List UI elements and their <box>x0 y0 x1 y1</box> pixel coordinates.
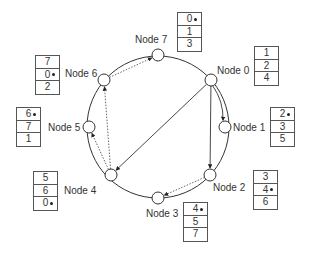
node-1-label: Node 1 <box>233 122 265 133</box>
nodes-layer <box>83 49 231 204</box>
finger-table-entry: 2 <box>36 81 59 94</box>
finger-table-entry: 2 <box>271 108 294 121</box>
entry-value: 1 <box>264 47 270 58</box>
entry-value: 4 <box>193 203 199 214</box>
bullet-marker-icon <box>270 188 273 191</box>
entry-value: 4 <box>263 184 269 195</box>
edge-4-to-6 <box>105 87 111 169</box>
edge-0-to-2 <box>210 86 211 168</box>
node-7-label: Node 7 <box>135 34 167 45</box>
entry-value: 4 <box>264 72 270 83</box>
node-2-circle <box>204 169 216 181</box>
entry-value: 2 <box>264 60 270 71</box>
edge-4-to-5 <box>92 133 109 169</box>
finger-table-entry: 5 <box>184 216 207 229</box>
finger-table-entry: 6 <box>34 185 57 198</box>
entry-value: 1 <box>187 26 193 37</box>
entry-value: 7 <box>193 228 199 239</box>
bullet-marker-icon <box>200 208 203 211</box>
finger-table-entry: 7 <box>17 121 40 134</box>
entry-value: 7 <box>45 56 51 67</box>
finger-table-entry: 1 <box>178 26 201 39</box>
finger-table-entry: 4 <box>255 72 278 85</box>
node-7-finger-table: 013 <box>177 12 202 52</box>
node-0-label: Node 0 <box>217 65 249 76</box>
node-5-circle <box>83 121 95 133</box>
bullet-marker-icon <box>52 73 55 76</box>
entry-value: 0 <box>43 197 49 208</box>
finger-table-entry: 5 <box>271 133 294 146</box>
node-4-circle <box>105 169 117 181</box>
bullet-marker-icon <box>33 113 36 116</box>
bullet-marker-icon <box>50 202 53 205</box>
node-6-label: Node 6 <box>65 68 97 79</box>
node-4-finger-table: 560 <box>33 171 58 211</box>
node-4-label: Node 4 <box>64 185 96 196</box>
entry-value: 3 <box>280 121 286 132</box>
finger-table-entry: 0 <box>36 69 59 82</box>
finger-table-entry: 0 <box>34 197 57 210</box>
node-1-finger-table: 235 <box>270 107 295 147</box>
entry-value: 5 <box>193 216 199 227</box>
entry-value: 2 <box>45 81 51 92</box>
node-5-label: Node 5 <box>48 122 80 133</box>
node-0-circle <box>205 74 217 86</box>
edge-0-to-1 <box>213 86 223 121</box>
entry-value: 7 <box>26 121 32 132</box>
node-6-circle <box>98 74 110 86</box>
finger-table-entry: 3 <box>271 121 294 134</box>
node-0-finger-table: 124 <box>254 46 279 86</box>
node-6-finger-table: 702 <box>35 55 60 95</box>
entry-value: 6 <box>263 196 269 207</box>
finger-table-entry: 7 <box>184 228 207 241</box>
finger-table-entry: 0 <box>178 13 201 26</box>
entry-value: 2 <box>280 108 286 119</box>
entry-value: 6 <box>43 185 49 196</box>
node-3-finger-table: 457 <box>183 202 208 242</box>
finger-table-entry: 1 <box>255 47 278 60</box>
node-7-circle <box>152 49 164 61</box>
entry-value: 0 <box>45 69 51 80</box>
finger-table-entry: 7 <box>36 56 59 69</box>
finger-table-entry: 1 <box>17 133 40 146</box>
edge-0-to-4 <box>116 84 207 170</box>
node-1-circle <box>219 121 231 133</box>
entry-value: 6 <box>26 108 32 119</box>
node-2-finger-table: 346 <box>253 170 278 210</box>
finger-table-entry: 6 <box>254 196 277 209</box>
node-3-label: Node 3 <box>146 208 178 219</box>
finger-table-entry: 4 <box>254 184 277 197</box>
entry-value: 3 <box>187 38 193 49</box>
finger-table-entry: 6 <box>17 108 40 121</box>
entry-value: 5 <box>280 133 286 144</box>
bullet-marker-icon <box>194 18 197 21</box>
entry-value: 3 <box>263 171 269 182</box>
bullet-marker-icon <box>287 113 290 116</box>
finger-table-entry: 2 <box>255 60 278 73</box>
finger-table-entry: 3 <box>254 171 277 184</box>
finger-table-entry: 4 <box>184 203 207 216</box>
node-3-circle <box>152 192 164 204</box>
edge-6-to-7 <box>109 58 151 78</box>
entry-value: 1 <box>26 133 32 144</box>
finger-table-entry: 3 <box>178 38 201 51</box>
node-5-finger-table: 671 <box>16 107 41 147</box>
entry-value: 5 <box>43 172 49 183</box>
entry-value: 0 <box>187 13 193 24</box>
finger-table-entry: 5 <box>34 172 57 185</box>
node-2-label: Node 2 <box>213 182 245 193</box>
